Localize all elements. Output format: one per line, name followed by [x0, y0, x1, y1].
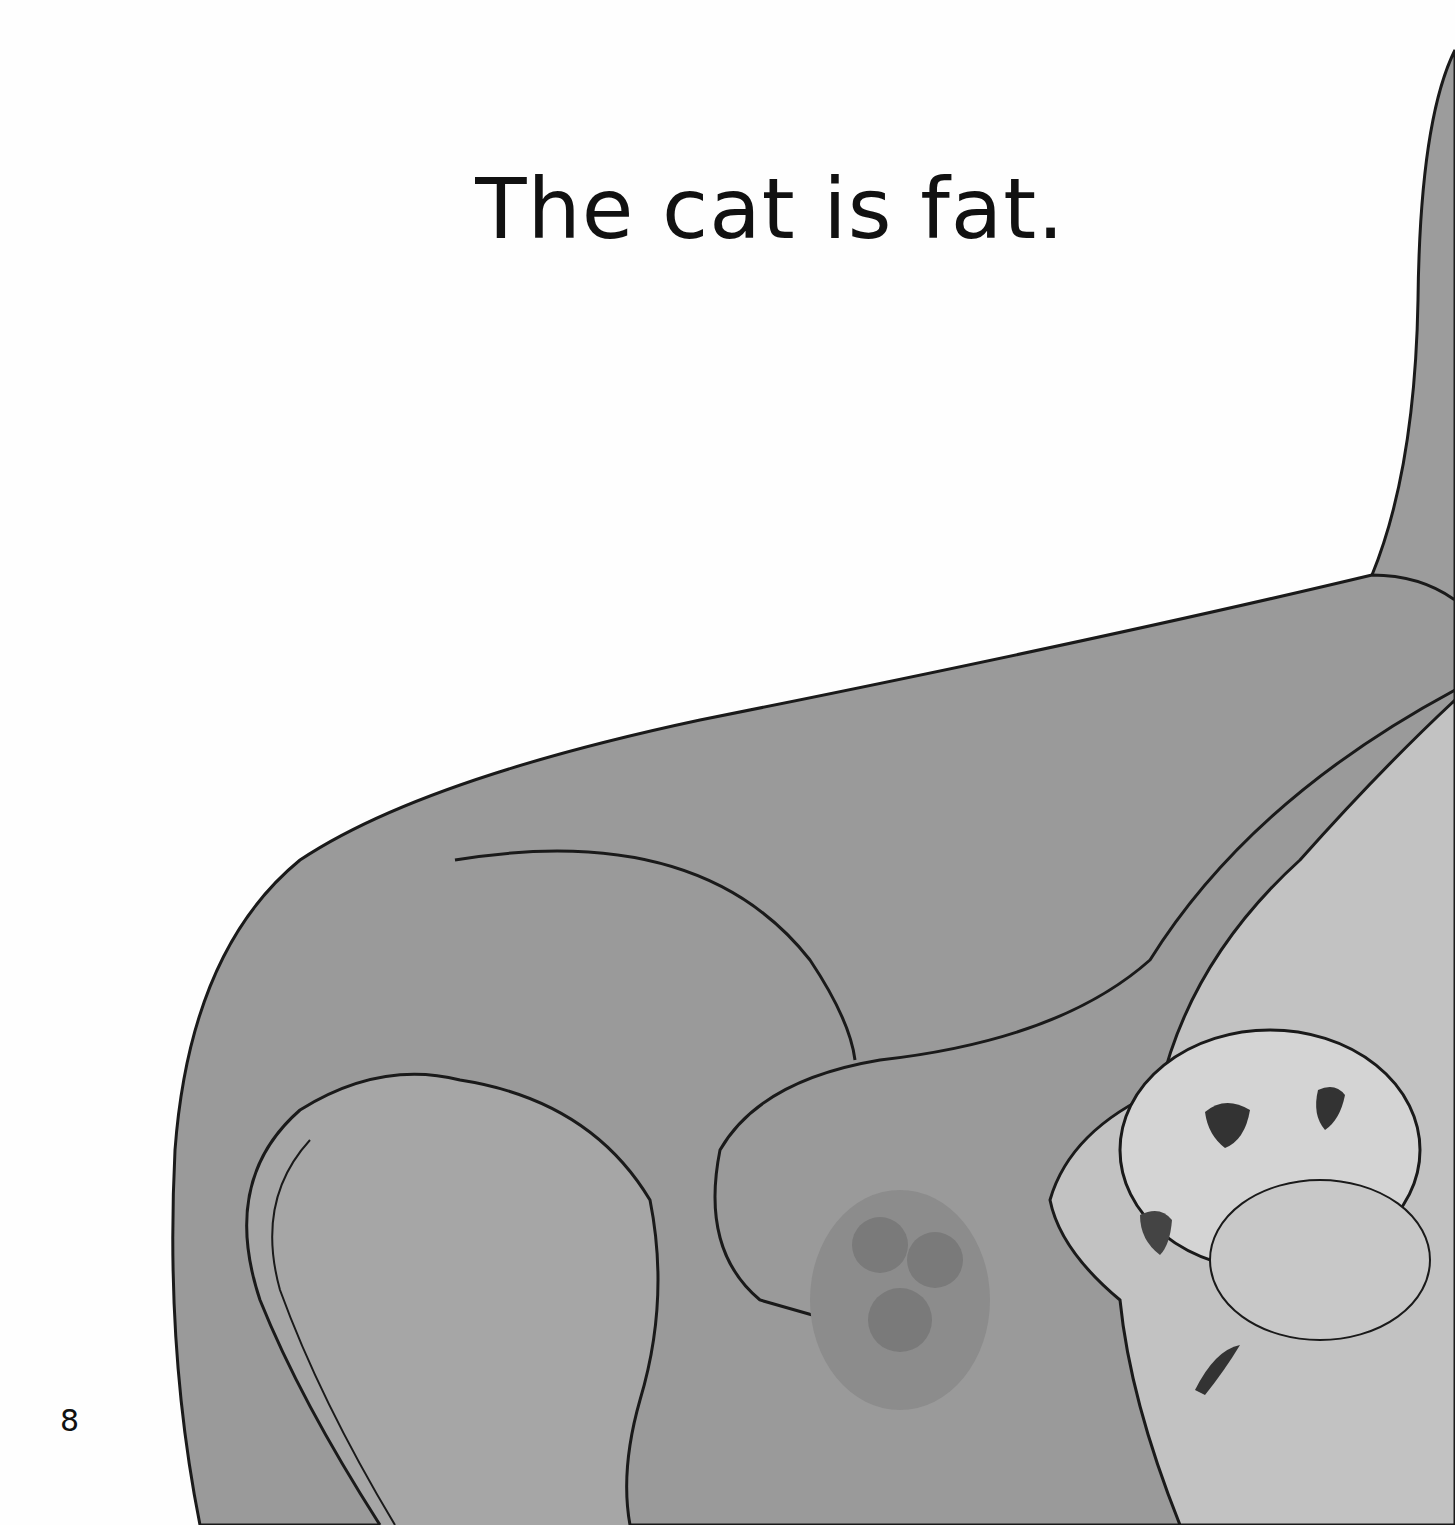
- paw-pad-2: [907, 1232, 963, 1288]
- page-number: 8: [60, 1403, 79, 1438]
- page-caption: The cat is fat.: [0, 160, 1455, 258]
- cat-muzzle: [1210, 1180, 1430, 1340]
- book-page: The cat is fat. 8: [0, 0, 1455, 1525]
- paw-pad-1: [852, 1217, 908, 1273]
- sofa-back: [1372, 50, 1455, 600]
- paw-pad-3: [868, 1288, 932, 1352]
